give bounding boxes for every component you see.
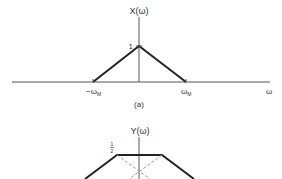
peak-label: 1: [129, 42, 134, 51]
label-pos-wm: ωM: [181, 87, 191, 97]
title-y-omega: Y(ω): [130, 126, 149, 136]
spectrum-diagram: X(ω) 1 −ωM ωM ω (a) Y(ω) 1 2: [0, 0, 282, 179]
label-omega-axis: ω: [266, 87, 272, 96]
figure-b: Y(ω) 1 2: [85, 126, 194, 179]
caption-a: (a): [134, 100, 144, 109]
half-label-num: 1: [111, 141, 114, 147]
title-x-omega: X(ω): [129, 6, 148, 16]
label-neg-wm: −ωM: [86, 87, 101, 97]
half-label-den: 2: [111, 148, 114, 154]
figure-a: X(ω) 1 −ωM ωM ω (a): [12, 6, 272, 109]
